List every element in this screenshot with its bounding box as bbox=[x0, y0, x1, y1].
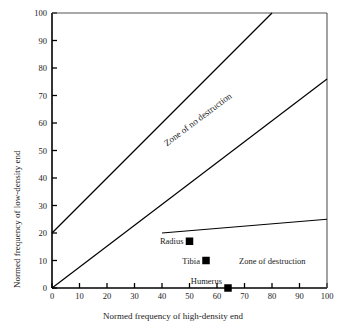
marker-humerus bbox=[224, 284, 232, 292]
y-tick-label: 80 bbox=[21, 63, 47, 73]
x-axis-title: Normed frequency of high-density end bbox=[0, 311, 346, 321]
x-tick-label: 10 bbox=[75, 291, 84, 301]
chart-figure: Normed frequency of high-density end Nor… bbox=[0, 0, 346, 332]
lower-boundary-line bbox=[162, 219, 327, 233]
marker-radius bbox=[186, 238, 194, 246]
y-tick-label: 70 bbox=[21, 91, 47, 101]
x-tick-label: 100 bbox=[321, 291, 334, 301]
point-label-radius: Radius bbox=[160, 236, 184, 246]
plot-canvas bbox=[0, 0, 346, 332]
x-tick-label: 60 bbox=[213, 291, 222, 301]
x-tick-label: 90 bbox=[295, 291, 304, 301]
y-tick-label: 90 bbox=[21, 36, 47, 46]
y-axis-title: Normed frequency of low-density end bbox=[12, 151, 22, 288]
x-tick-label: 0 bbox=[50, 291, 54, 301]
x-tick-label: 40 bbox=[158, 291, 167, 301]
x-tick-label: 80 bbox=[268, 291, 277, 301]
y-tick-label: 60 bbox=[21, 118, 47, 128]
y-tick-label: 0 bbox=[21, 283, 47, 293]
y-tick-label: 100 bbox=[21, 8, 47, 18]
axis-tick-marks bbox=[52, 13, 327, 288]
boundary-lines bbox=[52, 13, 327, 288]
x-tick-label: 20 bbox=[103, 291, 112, 301]
x-tick-label: 70 bbox=[240, 291, 249, 301]
point-label-tibia: Tibia bbox=[182, 256, 200, 266]
y-tick-label: 30 bbox=[21, 201, 47, 211]
x-tick-label: 50 bbox=[185, 291, 194, 301]
x-tick-label: 30 bbox=[130, 291, 139, 301]
marker-tibia bbox=[202, 257, 210, 265]
y-tick-label: 20 bbox=[21, 228, 47, 238]
y-tick-label: 10 bbox=[21, 256, 47, 266]
upper-boundary-line bbox=[52, 13, 272, 233]
point-label-humerus: Humerus bbox=[191, 276, 222, 286]
y-tick-label: 50 bbox=[21, 146, 47, 156]
axis-spines bbox=[52, 13, 327, 288]
annotation-zone-of-destruction: Zone of destruction bbox=[239, 256, 306, 266]
y-tick-label: 40 bbox=[21, 173, 47, 183]
